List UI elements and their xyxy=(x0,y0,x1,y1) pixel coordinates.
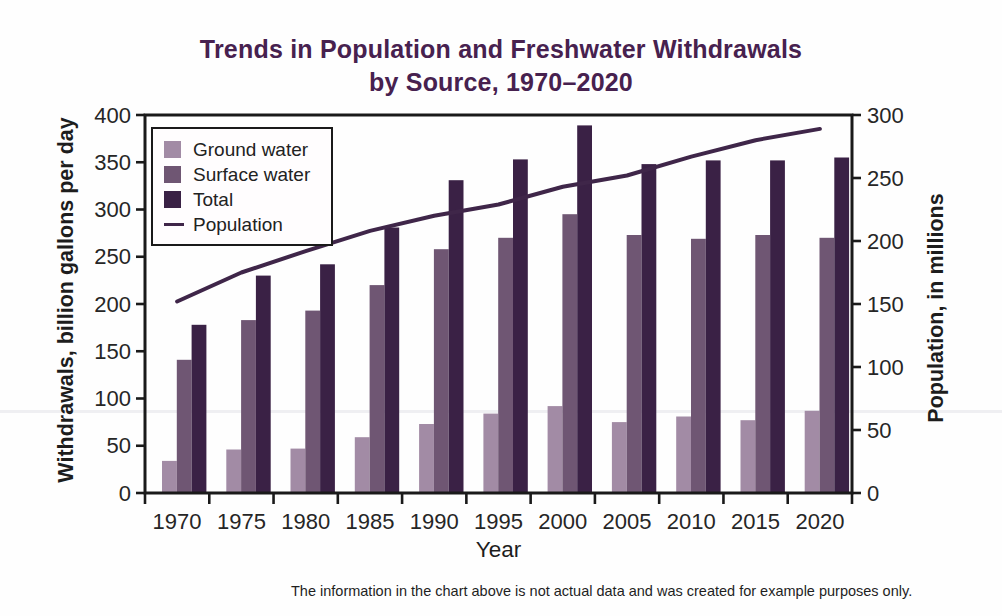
left-tick-label: 100 xyxy=(94,386,131,411)
bar-total-1985 xyxy=(384,228,399,494)
bar-total-1975 xyxy=(256,276,271,493)
year-label: 1985 xyxy=(346,509,395,534)
left-tick-label: 400 xyxy=(94,103,131,128)
bar-ground-water-1970 xyxy=(162,461,177,493)
x-axis-title: Year xyxy=(476,537,522,562)
bar-total-2015 xyxy=(770,160,785,493)
legend-item-population: Population xyxy=(164,212,321,237)
population-line-swatch-icon xyxy=(164,223,184,227)
bar-ground-water-1990 xyxy=(419,424,434,493)
scanned-chart-page: Trends in Population and Freshwater With… xyxy=(0,0,1002,616)
year-label: 2015 xyxy=(731,509,780,534)
bar-total-2010 xyxy=(706,160,721,493)
bar-ground-water-2005 xyxy=(612,422,627,493)
bar-ground-water-1995 xyxy=(483,414,498,493)
right-tick-label: 0 xyxy=(867,481,879,506)
bar-surface-water-1975 xyxy=(241,320,256,493)
legend-label: Total xyxy=(193,187,233,212)
legend: Ground water Surface water Total Populat… xyxy=(151,127,333,246)
bar-total-1995 xyxy=(513,159,528,493)
bar-surface-water-2020 xyxy=(820,238,835,493)
year-label: 1970 xyxy=(153,509,202,534)
bar-ground-water-1975 xyxy=(226,450,241,494)
combo-chart: 0501001502002503003504000501001502002503… xyxy=(0,0,1002,575)
bar-surface-water-1990 xyxy=(434,249,449,493)
legend-label: Surface water xyxy=(193,162,310,187)
year-label: 1990 xyxy=(410,509,459,534)
left-tick-label: 300 xyxy=(94,197,131,222)
left-tick-label: 250 xyxy=(94,244,131,269)
bar-surface-water-1970 xyxy=(177,360,192,493)
right-tick-label: 200 xyxy=(867,229,904,254)
bar-surface-water-1980 xyxy=(305,311,320,493)
bar-total-1990 xyxy=(449,180,464,493)
right-tick-label: 100 xyxy=(867,355,904,380)
right-tick-label: 150 xyxy=(867,292,904,317)
bar-ground-water-1980 xyxy=(291,449,306,493)
year-label: 1980 xyxy=(281,509,330,534)
bar-ground-water-2000 xyxy=(548,406,563,493)
bar-surface-water-1985 xyxy=(370,285,385,493)
legend-item-surface-water: Surface water xyxy=(164,162,321,187)
bar-surface-water-2015 xyxy=(755,235,770,493)
bar-ground-water-1985 xyxy=(355,437,370,493)
total-swatch-icon xyxy=(164,191,181,208)
year-label: 1975 xyxy=(217,509,266,534)
bar-surface-water-1995 xyxy=(498,238,513,493)
right-tick-label: 250 xyxy=(867,166,904,191)
bar-surface-water-2010 xyxy=(691,239,706,493)
left-tick-label: 50 xyxy=(107,433,131,458)
year-label: 1995 xyxy=(474,509,523,534)
bar-ground-water-2020 xyxy=(805,411,820,493)
bar-ground-water-2015 xyxy=(741,420,756,493)
left-tick-label: 0 xyxy=(119,481,131,506)
year-label: 2005 xyxy=(603,509,652,534)
left-tick-label: 150 xyxy=(94,339,131,364)
surface-water-swatch-icon xyxy=(164,166,181,183)
bar-total-1970 xyxy=(192,325,207,493)
left-tick-label: 200 xyxy=(94,292,131,317)
legend-item-total: Total xyxy=(164,187,321,212)
year-label: 2000 xyxy=(538,509,587,534)
bar-surface-water-2000 xyxy=(562,214,577,493)
year-label: 2020 xyxy=(795,509,844,534)
disclaimer-caption: The information in the chart above is no… xyxy=(291,583,912,599)
year-label: 2010 xyxy=(667,509,716,534)
legend-label: Ground water xyxy=(193,137,308,162)
bar-total-2005 xyxy=(642,164,657,493)
legend-item-ground-water: Ground water xyxy=(164,137,321,162)
left-tick-label: 350 xyxy=(94,150,131,175)
legend-label: Population xyxy=(193,212,283,237)
bar-surface-water-2005 xyxy=(627,235,642,493)
right-tick-label: 50 xyxy=(867,418,891,443)
bar-total-1980 xyxy=(320,264,335,493)
bar-ground-water-2010 xyxy=(676,417,691,494)
right-tick-label: 300 xyxy=(867,103,904,128)
bar-total-2020 xyxy=(834,158,849,494)
ground-water-swatch-icon xyxy=(164,141,181,158)
